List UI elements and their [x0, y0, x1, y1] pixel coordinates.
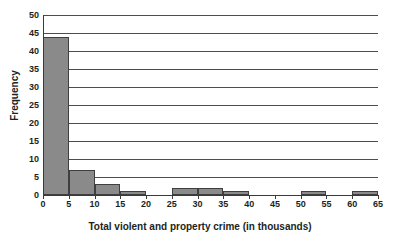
histogram-chart: 05101520253035404550 Frequency 051015202…: [0, 0, 400, 245]
bar: [198, 188, 224, 195]
gridline: [43, 51, 378, 52]
gridline: [43, 87, 378, 88]
x-tick-label: 65: [363, 200, 393, 209]
gridline: [43, 15, 378, 16]
y-axis-line: [43, 15, 44, 195]
y-tick-label: 45: [5, 29, 39, 38]
y-tick-label: 50: [5, 11, 39, 20]
y-tick-label: 10: [5, 155, 39, 164]
bar: [69, 170, 95, 195]
gridline: [43, 159, 378, 160]
gridline: [43, 141, 378, 142]
gridline: [43, 105, 378, 106]
bar: [172, 188, 198, 195]
y-tick-label: 5: [5, 173, 39, 182]
plot-area: [43, 15, 378, 195]
y-tick-label: 0: [5, 191, 39, 200]
gridline: [43, 123, 378, 124]
bar: [43, 37, 69, 195]
gridline: [43, 69, 378, 70]
bar: [95, 184, 121, 195]
y-axis-title: Frequency: [9, 46, 20, 146]
gridline: [43, 33, 378, 34]
x-axis-line: [43, 195, 378, 196]
x-axis-title: Total violent and property crime (in tho…: [0, 221, 400, 232]
